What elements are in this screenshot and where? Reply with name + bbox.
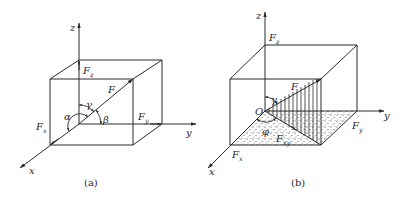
gamma-label-a: γ (86, 99, 92, 110)
svg-text:x: x (239, 155, 243, 163)
angle-beta-arc-a (96, 110, 101, 124)
force-label-a: F (107, 84, 116, 95)
svg-text:z: z (275, 38, 280, 46)
y-axis-label-b: y (383, 110, 390, 121)
fz-label-b: F z (268, 32, 280, 46)
fy-label-a: F y (137, 111, 149, 125)
svg-text:z: z (89, 71, 94, 79)
caption-b: (b) (291, 177, 305, 188)
x-axis-label-b: x (209, 166, 215, 177)
y-axis-label-a: y (185, 127, 192, 138)
z-axis-label-a: z (69, 22, 76, 33)
fx-label-b: F x (231, 149, 243, 163)
force-label-b: F (290, 81, 299, 92)
phi-label-b: φ (262, 126, 269, 137)
fz-label-a: F z (82, 65, 94, 79)
fx-label-a: F x (35, 121, 47, 135)
x-axis-label-a: x (29, 165, 35, 176)
z-axis-label-b: z (255, 10, 262, 21)
force-decomposition-figure: z y x F F z F y F x α γ β (a) (0, 0, 408, 204)
svg-text:y: y (144, 117, 149, 125)
alpha-label-a: α (64, 111, 71, 122)
caption-a: (a) (84, 177, 98, 188)
figure-b: z y x O F F z F y F x F xy γ φ (b) (208, 10, 390, 188)
svg-text:x: x (43, 127, 47, 135)
figure-a: z y x F F z F y F x α γ β (a) (20, 22, 196, 188)
angle-alpha-arc-a (68, 114, 88, 131)
beta-label-a: β (102, 114, 109, 125)
fx-arrow-a (51, 139, 58, 144)
fy-label-b: F y (351, 120, 363, 134)
gamma-label-b: γ (271, 94, 277, 105)
box-a (50, 60, 162, 145)
svg-text:y: y (358, 126, 363, 134)
svg-text:xy: xy (283, 139, 291, 147)
origin-label-b: O (255, 106, 263, 117)
